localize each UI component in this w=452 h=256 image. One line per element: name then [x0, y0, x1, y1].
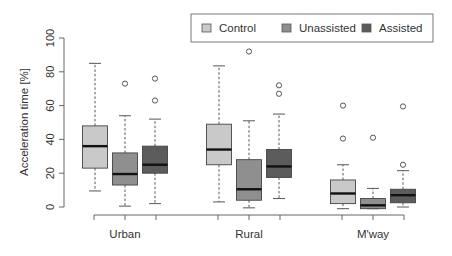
- outlier-point: [122, 81, 127, 86]
- legend-swatch-control: [202, 24, 211, 32]
- legend-label-assisted: Assisted: [379, 22, 422, 34]
- box-control-urban: [83, 63, 108, 191]
- legend-label-control: Control: [219, 22, 256, 34]
- box-assisted-rural: [267, 83, 292, 199]
- outlier-point: [370, 135, 375, 140]
- box-unassisted-urban: [113, 81, 138, 206]
- x-category-label: Urban: [109, 228, 140, 240]
- outlier-point: [276, 83, 281, 88]
- box-assisted-mway: [391, 104, 416, 207]
- box-plot-chart: 020406080100 Acceleration time [%] Urban…: [0, 0, 452, 256]
- outlier-point: [400, 104, 405, 109]
- boxes: [83, 49, 416, 209]
- y-axis-label: Acceleration time [%]: [18, 68, 30, 176]
- legend-swatch-unassisted: [282, 24, 291, 32]
- outlier-point: [340, 103, 345, 108]
- x-category-label: M'way: [357, 228, 389, 240]
- outlier-point: [152, 98, 157, 103]
- outlier-point: [400, 162, 405, 167]
- y-tick-label: 0: [44, 204, 56, 210]
- x-category-label: Rural: [235, 228, 262, 240]
- y-tick-label: 100: [44, 29, 56, 47]
- legend-swatch-assisted: [362, 24, 371, 32]
- legend-label-unassisted: Unassisted: [299, 22, 356, 34]
- y-tick-label: 80: [44, 66, 56, 78]
- box-assisted-urban: [143, 76, 168, 204]
- box-control-mway: [331, 103, 356, 209]
- box-unassisted-rural: [237, 49, 262, 208]
- box-unassisted-mway: [361, 135, 386, 209]
- outlier-point: [340, 136, 345, 141]
- y-tick-label: 20: [44, 167, 56, 179]
- y-axis: 020406080100: [44, 29, 64, 210]
- box-control-rural: [207, 66, 232, 202]
- x-axis: UrbanRuralM'way: [94, 215, 404, 240]
- legend: ControlUnassistedAssisted: [191, 14, 433, 42]
- y-tick-label: 40: [44, 133, 56, 145]
- outlier-point: [246, 49, 251, 54]
- y-tick-label: 60: [44, 99, 56, 111]
- outlier-point: [152, 76, 157, 81]
- outlier-point: [276, 91, 281, 96]
